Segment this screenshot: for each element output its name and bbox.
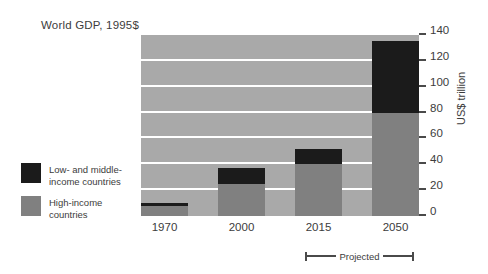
y-tick-140 <box>419 33 426 35</box>
y-tick-label-40: 40 <box>430 153 443 165</box>
y-tick-label-60: 60 <box>430 127 443 139</box>
y-tick-label-0: 0 <box>430 205 436 217</box>
bracket-cap-right <box>412 252 414 261</box>
y-tick-20 <box>419 188 426 190</box>
y-tick-120 <box>419 59 426 61</box>
bar-stack-2000 <box>218 168 265 216</box>
y-tick-label-80: 80 <box>430 102 443 114</box>
bars-layer <box>141 35 419 216</box>
legend-label: Low- and middle-income countries <box>49 163 122 187</box>
y-tick-label-140: 140 <box>430 24 449 36</box>
y-tick-80 <box>419 111 426 113</box>
x-tick-label-1970: 1970 <box>141 221 188 239</box>
bar-segment-2000-low-middle-income <box>218 168 265 184</box>
x-axis: 1970200020152050 <box>141 221 419 239</box>
y-axis: 020406080100120140 <box>419 35 420 216</box>
bar-segment-2050-high-income <box>372 113 419 216</box>
legend-item-low-middle-income[interactable]: Low- and middle-income countries <box>21 163 136 187</box>
chart-figure: World GDP, 1995$ 020406080100120140 US$ … <box>0 0 488 274</box>
bar-1970[interactable] <box>141 35 188 216</box>
legend-swatch-low-middle-income <box>21 163 41 183</box>
y-tick-0 <box>419 214 426 216</box>
bar-2000[interactable] <box>218 35 265 216</box>
chart-legend: Low- and middle-income countriesHigh-inc… <box>21 163 136 229</box>
legend-label: High-incomecountries <box>49 196 102 220</box>
x-tick-label-2015: 2015 <box>295 221 342 239</box>
y-tick-label-20: 20 <box>430 179 443 191</box>
x-tick-label-2000: 2000 <box>218 221 265 239</box>
y-tick-60 <box>419 136 426 138</box>
bar-stack-2015 <box>295 149 342 216</box>
plot-area <box>141 35 419 216</box>
bar-segment-2000-high-income <box>218 184 265 216</box>
x-tick-label-2050: 2050 <box>372 221 419 239</box>
bar-segment-2015-high-income <box>295 164 342 216</box>
projected-bracket-annotation: Projected <box>305 250 414 262</box>
bar-segment-2050-low-middle-income <box>372 41 419 112</box>
projected-label: Projected <box>336 251 382 262</box>
y-tick-40 <box>419 162 426 164</box>
bar-segment-2015-low-middle-income <box>295 149 342 165</box>
y-tick-label-120: 120 <box>430 50 449 62</box>
bracket-line-right <box>383 255 412 257</box>
bar-2015[interactable] <box>295 35 342 216</box>
legend-swatch-high-income <box>21 196 41 216</box>
chart-title: World GDP, 1995$ <box>41 19 139 31</box>
y-tick-100 <box>419 85 426 87</box>
y-axis-title: US$ trillion <box>455 72 467 125</box>
bar-2050[interactable] <box>372 35 419 216</box>
bar-segment-1970-high-income <box>141 206 188 216</box>
bar-stack-2050 <box>372 41 419 216</box>
legend-item-high-income[interactable]: High-incomecountries <box>21 196 136 220</box>
bracket-line-left <box>307 255 336 257</box>
y-tick-label-100: 100 <box>430 76 449 88</box>
bar-stack-1970 <box>141 203 188 216</box>
